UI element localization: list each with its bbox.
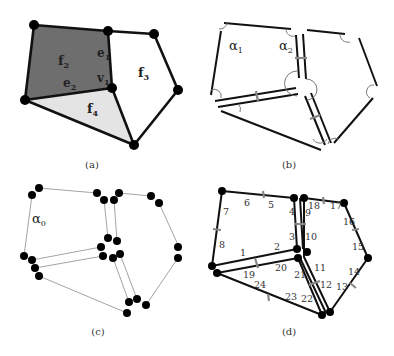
svg-text:11: 11 <box>314 262 326 273</box>
svg-text:16: 16 <box>343 216 355 227</box>
svg-text:20: 20 <box>275 262 287 273</box>
svg-text:17: 17 <box>330 200 342 211</box>
panel-a: f2 f3 f4 e1 e2 v1 (a) <box>20 20 183 170</box>
figure-canvas: f2 f3 f4 e1 e2 v1 (a) <box>0 0 394 356</box>
svg-text:18: 18 <box>308 200 320 211</box>
svg-text:22: 22 <box>301 293 313 304</box>
svg-text:6: 6 <box>244 197 250 208</box>
label-alpha0: α0 <box>32 211 46 228</box>
label-f3: f3 <box>138 65 150 82</box>
svg-text:12: 12 <box>320 279 332 290</box>
svg-text:10: 10 <box>305 231 317 242</box>
caption-c: (c) <box>91 326 105 337</box>
svg-text:3: 3 <box>289 231 295 242</box>
svg-text:13: 13 <box>336 281 348 292</box>
svg-text:7: 7 <box>223 206 229 217</box>
caption-a: (a) <box>85 159 99 170</box>
caption-d: (d) <box>282 326 296 337</box>
svg-text:8: 8 <box>219 239 225 250</box>
svg-text:14: 14 <box>348 266 360 277</box>
svg-text:5: 5 <box>268 199 274 210</box>
panel-d: 1 2 3 4 5 6 7 8 9 10 11 12 13 14 15 16 1… <box>208 187 372 337</box>
svg-text:24: 24 <box>254 279 266 290</box>
svg-text:1: 1 <box>240 247 246 258</box>
svg-text:4: 4 <box>289 206 295 217</box>
panel-c: α0 (c) <box>20 184 182 337</box>
panel-b: α1 α2 (b) <box>211 23 377 170</box>
vertex-dots <box>20 184 182 317</box>
svg-text:21: 21 <box>294 269 306 280</box>
label-alpha1: α1 <box>229 38 243 55</box>
svg-text:23: 23 <box>285 291 297 302</box>
caption-b: (b) <box>282 159 296 170</box>
svg-text:15: 15 <box>352 241 364 252</box>
svg-text:2: 2 <box>274 241 280 252</box>
label-alpha2: α2 <box>279 38 293 55</box>
